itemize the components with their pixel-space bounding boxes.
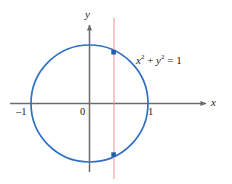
equation-plus: + [144, 54, 156, 66]
equation-value: 1 [176, 54, 182, 66]
x-tick-label-one: 1 [148, 107, 153, 118]
intersection-point-upper [111, 50, 116, 55]
origin-label: 0 [80, 107, 85, 118]
x-tick-label-negative-one: –1 [16, 107, 27, 118]
x-axis-label: x [211, 97, 216, 108]
equation-equals: = [165, 54, 177, 66]
intersection-point-lower [111, 152, 116, 157]
equation-annotation: x2 + y2 = 1 [136, 55, 182, 66]
plot-canvas [0, 0, 232, 184]
unit-circle-figure: y x 0 –1 1 x2 + y2 = 1 [0, 0, 232, 184]
y-axis-label: y [85, 9, 90, 20]
